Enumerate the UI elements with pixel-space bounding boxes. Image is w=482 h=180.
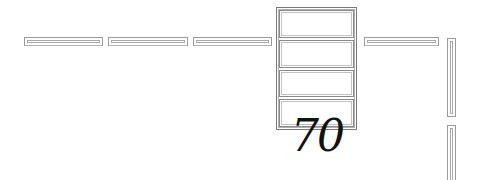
number-label: 70 bbox=[284, 110, 350, 162]
horizontal-bar-4 bbox=[364, 37, 439, 46]
horizontal-bar-2 bbox=[108, 37, 188, 46]
stack-cell-2 bbox=[279, 40, 354, 68]
vertical-bar-2 bbox=[447, 125, 456, 180]
stack-cell-3 bbox=[279, 70, 354, 98]
horizontal-bar-3 bbox=[193, 37, 272, 46]
horizontal-bar-1 bbox=[24, 37, 103, 46]
stack-cell-1 bbox=[279, 10, 354, 38]
vertical-bar-1 bbox=[447, 38, 456, 117]
